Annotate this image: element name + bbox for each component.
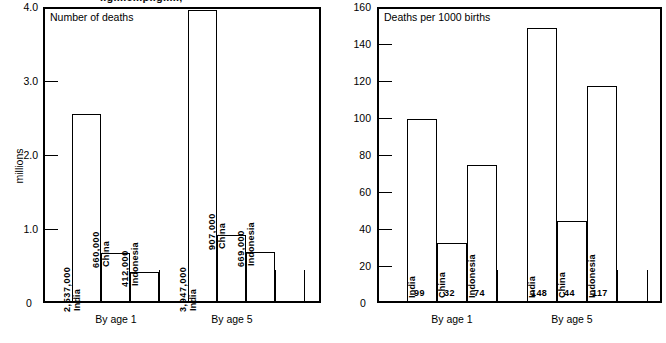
bar-left-age5-india-label: 3,947,000 India xyxy=(178,267,198,312)
right-ytick-120: 120 xyxy=(331,75,371,87)
bar-left-age1-india-label: 2,537,000 India xyxy=(62,267,82,312)
bar-country-text: Indonesia xyxy=(246,222,256,266)
bar-right-age5-china-value: 44 xyxy=(564,288,575,298)
chart-number-of-deaths: Number of deaths millions 4.0 3.0 2.0 1.… xyxy=(0,0,333,343)
right-group-label-age1: By age 1 xyxy=(402,313,502,325)
bar-value-text: 907,000 xyxy=(207,213,217,250)
right-ytick-100: 100 xyxy=(331,112,371,124)
bar-country-text: China xyxy=(101,231,111,267)
bar-value-text: 660,000 xyxy=(91,231,101,268)
left-y-axis-label: millions xyxy=(13,138,25,194)
right-tick-20 xyxy=(379,266,392,267)
bar-left-age1-indonesia-label: 412,000 Indonesia xyxy=(120,242,140,287)
bar-value-text: 669,000 xyxy=(236,230,246,267)
bar-country-text: India xyxy=(72,267,82,311)
left-tick-2 xyxy=(45,155,58,156)
right-ytick-20: 20 xyxy=(331,260,371,272)
right-slot-sep-7 xyxy=(617,270,618,303)
bar-right-age1-indonesia-value: 74 xyxy=(474,288,485,298)
left-tick-1 xyxy=(45,229,58,230)
left-group-label-age5: By age 5 xyxy=(182,313,282,325)
bar-value-text: 2,537,000 xyxy=(62,267,72,312)
left-chart-title: Number of deaths xyxy=(50,11,133,23)
bar-right-age5-india-value: 148 xyxy=(531,288,547,298)
left-tick-3 xyxy=(45,81,58,82)
right-tick-40 xyxy=(379,229,392,230)
left-ytick-1: 1.0 xyxy=(0,223,38,235)
bar-country-text: Indonesia xyxy=(130,242,140,286)
bar-value-text: 412,000 xyxy=(120,250,130,287)
bar-right-age1-india[interactable] xyxy=(407,119,437,302)
right-ytick-40: 40 xyxy=(331,223,371,235)
figure-canvas: ..g....e...p..g....., Number of deaths m… xyxy=(0,0,666,343)
bar-country-text: China xyxy=(217,213,227,249)
bar-right-age1-china-value: 32 xyxy=(444,288,455,298)
bar-left-age1-china-label: 660,000 China xyxy=(91,231,111,268)
right-slot-sep-8 xyxy=(647,270,648,303)
right-axis-baseline xyxy=(377,302,662,303)
left-slot-sep-3 xyxy=(159,270,160,303)
right-chart-title: Deaths per 1000 births xyxy=(384,11,490,23)
right-tick-140 xyxy=(379,44,392,45)
left-slot-sep-7 xyxy=(275,270,276,303)
bar-value-text: 3,947,000 xyxy=(178,267,188,312)
bar-right-age5-indonesia-value: 117 xyxy=(592,288,608,298)
bar-left-age5-indonesia-label: 669,000 Indonesia xyxy=(236,222,256,267)
right-ytick-80: 80 xyxy=(331,149,371,161)
right-ytick-0: 0 xyxy=(360,297,366,309)
bar-right-age5-india[interactable] xyxy=(527,28,557,302)
right-group-label-age5: By age 5 xyxy=(522,313,622,325)
left-group-label-age1: By age 1 xyxy=(66,313,166,325)
bar-right-age1-india-value: 99 xyxy=(414,288,425,298)
right-ytick-140: 140 xyxy=(331,38,371,50)
right-tick-120 xyxy=(379,81,392,82)
right-tick-80 xyxy=(379,155,392,156)
right-ytick-160: 160 xyxy=(331,1,371,13)
bar-country-text: India xyxy=(188,267,198,311)
bar-left-age5-china-label: 907,000 China xyxy=(207,213,227,250)
right-tick-100 xyxy=(379,118,392,119)
right-ytick-60: 60 xyxy=(331,186,371,198)
right-slot-sep-3 xyxy=(497,270,498,303)
right-tick-60 xyxy=(379,192,392,193)
chart-deaths-per-1000-births: Deaths per 1000 births 160 140 120 100 8… xyxy=(333,0,666,343)
left-ytick-3: 3.0 xyxy=(0,75,38,87)
left-slot-sep-8 xyxy=(304,270,305,303)
left-ytick-4: 4.0 xyxy=(0,1,38,13)
left-ytick-2: 2.0 xyxy=(0,149,38,161)
bar-left-age5-india[interactable] xyxy=(188,10,217,302)
left-ytick-0: 0 xyxy=(26,297,32,309)
